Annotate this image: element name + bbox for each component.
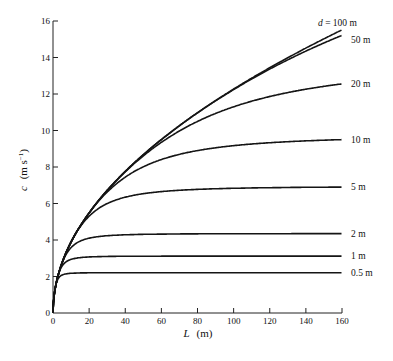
x-tick-label: 140 bbox=[299, 316, 313, 326]
x-tick-label: 160 bbox=[335, 316, 349, 326]
y-tick-label: 0 bbox=[46, 308, 51, 318]
series-label: 5 m bbox=[351, 182, 366, 192]
x-tick-label: 40 bbox=[121, 316, 131, 326]
x-axis-title: L (m) bbox=[183, 327, 213, 340]
curve-20m bbox=[53, 84, 342, 313]
x-tick-label: 0 bbox=[51, 316, 56, 326]
curves bbox=[53, 30, 342, 313]
y-tick-label: 4 bbox=[46, 235, 51, 245]
series-label: 20 m bbox=[351, 79, 371, 89]
curve-100m bbox=[53, 30, 342, 313]
series-label: 50 m bbox=[351, 35, 371, 45]
series-label: 1 m bbox=[351, 251, 366, 261]
axes: 0246810121416020406080100120140160 bbox=[41, 16, 349, 326]
y-tick-label: 12 bbox=[41, 89, 50, 99]
x-tick-label: 120 bbox=[263, 316, 277, 326]
series-label: 0.5 m bbox=[351, 268, 373, 278]
series-label: d = 100 m bbox=[318, 18, 357, 28]
x-tick-label: 100 bbox=[227, 316, 241, 326]
y-tick-label: 6 bbox=[46, 199, 51, 209]
series-labels: d = 100 m50 m20 m10 m5 m2 m1 m0.5 m bbox=[318, 18, 373, 278]
x-tick-label: 20 bbox=[85, 316, 95, 326]
curve-0.5m bbox=[53, 273, 342, 313]
y-tick-label: 14 bbox=[41, 53, 51, 63]
y-tick-label: 16 bbox=[41, 16, 51, 26]
x-tick-label: 80 bbox=[193, 316, 203, 326]
curve-50m bbox=[53, 36, 342, 313]
series-label: 10 m bbox=[351, 135, 371, 145]
x-tick-label: 60 bbox=[157, 316, 167, 326]
wave-speed-chart: 0246810121416020406080100120140160 d = 1… bbox=[0, 0, 393, 361]
y-tick-label: 8 bbox=[46, 162, 51, 172]
y-axis-title: c (m s−1) bbox=[17, 149, 30, 191]
series-label: 2 m bbox=[351, 229, 366, 239]
curve-10m bbox=[53, 140, 342, 313]
curve-5m bbox=[53, 187, 342, 313]
curve-1m bbox=[53, 256, 342, 313]
y-tick-label: 2 bbox=[46, 272, 51, 282]
y-tick-label: 10 bbox=[41, 126, 51, 136]
